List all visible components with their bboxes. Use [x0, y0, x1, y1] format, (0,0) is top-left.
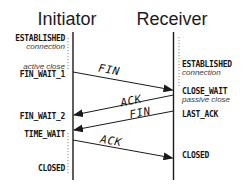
state-label-initiator-fin-wait-2: FIN_WAIT_2: [20, 113, 65, 121]
state-label-initiator-time-wait: TIME_WAIT: [24, 131, 65, 139]
tcp-teardown-diagram: Initiator Receiver ESTABLISHED connectio…: [0, 0, 252, 189]
state-label-receiver-last-ack: LAST_ACK: [182, 111, 218, 119]
state-label-initiator-fin-wait-1: FIN_WAIT_1: [20, 71, 65, 79]
fin-arrow-1: [73, 72, 173, 90]
message-label-ack-2: ACK: [100, 134, 123, 149]
note-receiver-passive-close: passive close: [182, 96, 230, 104]
note-receiver-connection: connection: [182, 69, 221, 77]
note-initiator-connection: connection: [26, 43, 65, 51]
state-label-receiver-closed: CLOSED: [182, 152, 209, 160]
state-label-initiator-closed: CLOSED: [38, 165, 65, 173]
ack-arrow-2: [73, 140, 173, 158]
message-label-fin-1: FIN: [98, 63, 121, 78]
fin-arrow-2: [74, 111, 174, 130]
